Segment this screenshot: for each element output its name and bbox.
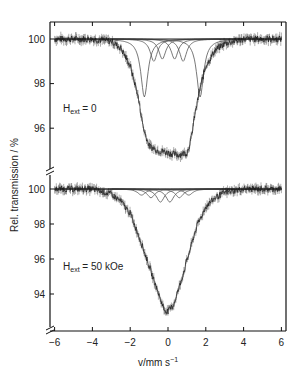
x-axis-ticks: −6−4−20246 (49, 22, 285, 348)
y-tick-label: 94 (34, 289, 46, 300)
fit-component-curve (55, 39, 282, 61)
x-axis-title: v/mm s−1 (138, 356, 178, 368)
y-axis-title: Rel. transmission / % (9, 138, 20, 232)
data-trace (55, 36, 282, 158)
y-tick-label: 98 (34, 78, 46, 89)
y-tick-label: 100 (28, 184, 45, 195)
y-tick-label: 100 (28, 34, 45, 45)
fit-component-curve (55, 39, 282, 59)
fit-component-curve (55, 39, 282, 59)
fit-component-curve (55, 39, 282, 97)
y-tick-label: 96 (34, 123, 46, 134)
x-tick-label: −2 (124, 337, 136, 348)
data-trace (55, 186, 282, 314)
x-tick-label: −6 (49, 337, 61, 348)
fit-component-curve (55, 39, 282, 97)
y-tick-label: 96 (34, 254, 46, 265)
x-tick-label: −4 (87, 337, 99, 348)
top-panel-annotation: Hext = 0 (63, 103, 97, 115)
x-tick-label: 2 (203, 337, 209, 348)
x-tick-label: 6 (279, 337, 285, 348)
top-data-series (55, 32, 282, 162)
bottom-data-series (55, 182, 282, 316)
y-tick-label: 98 (34, 219, 46, 230)
top-fit-components (55, 39, 282, 97)
x-tick-label: 4 (241, 337, 247, 348)
plot-frame (50, 22, 286, 331)
x-tick-label: 0 (165, 337, 171, 348)
bottom-panel-annotation: Hext = 50 kOe (63, 261, 124, 273)
mossbauer-chart: −6−4−20246 1009896 100989694 Rel. transm… (0, 0, 302, 374)
fit-component-curve (55, 39, 282, 61)
